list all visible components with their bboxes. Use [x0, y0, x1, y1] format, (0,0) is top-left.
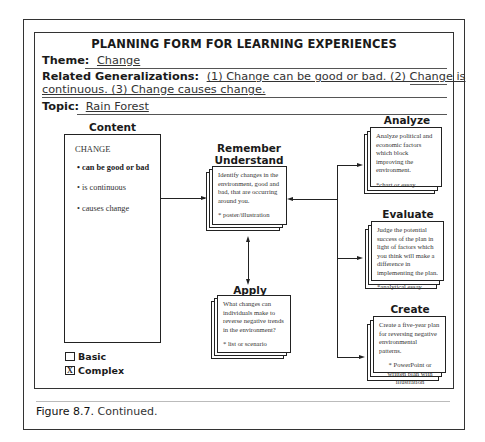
generalizations-underline-1	[410, 84, 447, 85]
theme-value: Change	[97, 54, 140, 67]
create-body: Create a five-year plan for reversing ne…	[379, 321, 441, 355]
create-note: * PowerPoint or written plan with illust…	[379, 361, 441, 387]
theme-underline	[85, 68, 447, 69]
evaluate-heading: Evaluate	[372, 208, 444, 220]
basic-option[interactable]: Basic	[65, 351, 106, 362]
evaluate-card: Judge the potential success of the plan …	[371, 221, 444, 281]
topic-label: Topic:	[42, 100, 79, 113]
theme-field: Theme: Change	[42, 54, 140, 67]
connector-vertical	[337, 165, 338, 358]
remember-heading: Remember Understand	[206, 142, 292, 166]
theme-label: Theme:	[42, 54, 89, 67]
apply-note: * list or scenario	[223, 340, 286, 349]
evaluate-note: *analytical essay	[377, 283, 439, 292]
caption-text: Continued.	[94, 405, 157, 418]
content-item: • is continuous	[75, 183, 160, 193]
remember-heading-line1: Remember	[206, 142, 292, 154]
content-item: • causes change	[75, 204, 160, 214]
content-box: CHANGE • can be good or bad • is continu…	[64, 134, 161, 343]
evaluate-body: Judge the potential success of the plan …	[377, 226, 439, 277]
create-heading: Create	[374, 303, 446, 315]
content-item: • can be good or bad	[75, 163, 160, 173]
analyze-card: Analyze political and economic factors w…	[370, 127, 442, 187]
complex-checkbox[interactable]: X	[65, 366, 75, 375]
generalizations-value-line2: continuous. (3) Change causes change.	[42, 83, 266, 96]
arrow-remember-apply	[248, 240, 249, 280]
figure-number: Figure 8.7.	[36, 405, 94, 418]
remember-note: * poster/illustration	[218, 211, 282, 220]
analyze-body: Analyze political and economic factors w…	[376, 132, 437, 175]
analyze-note: *chart or essay	[376, 181, 437, 190]
arrow-to-create	[337, 357, 361, 358]
generalizations-field-continued: continuous. (3) Change causes change.	[42, 83, 266, 96]
arrow-to-analyze	[337, 165, 359, 166]
analyze-heading: Analyze	[372, 114, 442, 126]
remember-heading-line2: Understand	[206, 154, 292, 166]
arrowhead-left-icon	[287, 197, 293, 201]
arrowhead-right-icon	[357, 163, 363, 167]
basic-label: Basic	[78, 351, 106, 362]
create-card: Create a five-year plan for reversing ne…	[373, 316, 446, 373]
apply-body: What changes can individuals make to rev…	[223, 300, 286, 334]
form-title: PLANNING FORM FOR LEARNING EXPERIENCES	[34, 37, 454, 51]
generalizations-label: Related Generalizations:	[42, 70, 199, 83]
generalizations-field: Related Generalizations: (1) Change can …	[42, 70, 465, 83]
generalizations-underline-2	[42, 97, 447, 98]
caption-divider	[36, 401, 450, 402]
remember-body: Identify changes in the environment, goo…	[218, 171, 282, 205]
basic-checkbox[interactable]	[65, 352, 75, 361]
arrow-to-remember	[292, 199, 338, 200]
content-heading: Content	[64, 121, 161, 133]
figure-caption: Figure 8.7. Continued.	[36, 405, 158, 418]
topic-value: Rain Forest	[86, 100, 149, 113]
arrowhead-right-icon	[357, 256, 363, 260]
remember-card: Identify changes in the environment, goo…	[212, 166, 287, 225]
topic-field: Topic: Rain Forest	[42, 100, 149, 113]
content-title: CHANGE	[75, 144, 160, 154]
generalizations-value-line1: (1) Change can be good or bad. (2) Chang…	[207, 70, 466, 83]
complex-option[interactable]: X Complex	[65, 365, 124, 376]
arrow-to-evaluate	[337, 258, 359, 259]
arrow-content-to-remember	[161, 198, 205, 199]
complex-label: Complex	[78, 365, 124, 376]
arrowhead-right-icon	[359, 355, 365, 359]
apply-card: What changes can individuals make to rev…	[217, 295, 291, 353]
